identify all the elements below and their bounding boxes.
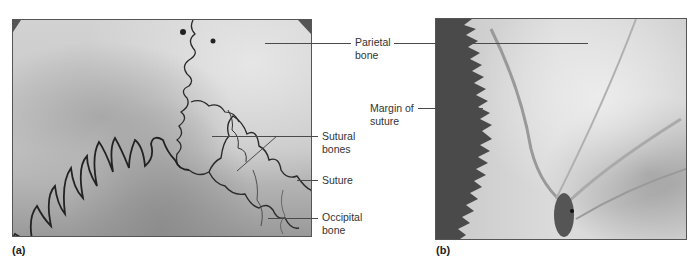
label-margin-of-suture: Margin of suture [370, 102, 414, 128]
label-line: Occipital [322, 211, 362, 224]
suture-pattern-illustration [13, 20, 311, 236]
leader-line-suture [297, 180, 318, 181]
label-line: bone [322, 224, 362, 237]
label-line: Sutural [322, 130, 355, 143]
leader-line-margin-of-suture [418, 108, 483, 109]
leader-line-sutural-bones [212, 136, 318, 137]
label-line: Suture [322, 174, 353, 187]
suture-margin-illustration [436, 19, 686, 239]
label-line: bones [322, 143, 355, 156]
panel-label-b: (b) [436, 244, 450, 256]
label-line: suture [370, 115, 414, 128]
photo-suture-margin [435, 18, 687, 240]
leader-line-parietal-b [394, 43, 588, 44]
label-sutural-bones: Sutural bones [322, 130, 355, 156]
label-line: Margin of [370, 102, 414, 115]
leader-line-parietal-a [265, 43, 318, 44]
label-suture: Suture [322, 174, 353, 187]
photo-skull-sutures [12, 19, 312, 237]
leader-line-occipital [268, 218, 318, 219]
label-parietal-bone: Parietal bone [355, 36, 391, 62]
panel-label-a: (a) [12, 244, 25, 256]
label-line: bone [355, 49, 391, 62]
label-occipital-bone: Occipital bone [322, 211, 362, 237]
leader-line-parietal-a-right [318, 43, 351, 44]
label-line: Parietal [355, 36, 391, 49]
